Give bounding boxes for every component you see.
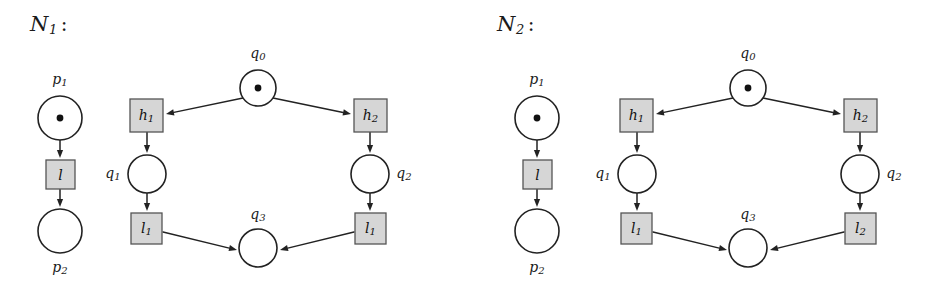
- place-q2-label: q2: [396, 166, 411, 182]
- petri-net-n2: N2:lp1p2h1h2l1l2q0q1q2q3: [467, 0, 933, 289]
- place-q3-label: q3: [740, 207, 755, 223]
- place-q1-label: q1: [595, 166, 610, 182]
- place-q0-label: q0: [250, 46, 265, 62]
- net-labels: lp1p2h1h2l1l2q0q1q2q3: [467, 0, 933, 289]
- transition-l-label: l: [535, 168, 539, 182]
- transition-h1-label: h1: [139, 108, 154, 124]
- place-p1-label: p1: [529, 72, 544, 88]
- petri-net-figure: N1:lp1p2h1h2l1l1q0q1q2q3 N2:lp1p2h1h2l1l…: [0, 0, 933, 289]
- transition-l1-left-label: l1: [141, 221, 152, 237]
- transition-l2-right-label: l2: [855, 221, 866, 237]
- transition-l1-left-label: l1: [631, 221, 642, 237]
- place-q2-label: q2: [886, 166, 901, 182]
- place-q1-label: q1: [105, 166, 120, 182]
- transition-l-label: l: [58, 168, 62, 182]
- transition-h2-label: h2: [853, 108, 868, 124]
- place-q0-label: q0: [740, 46, 755, 62]
- transition-h2-label: h2: [363, 108, 378, 124]
- place-p1-label: p1: [52, 72, 67, 88]
- transition-h1-label: h1: [629, 108, 644, 124]
- net-labels: lp1p2h1h2l1l1q0q1q2q3: [0, 0, 466, 289]
- petri-net-n1: N1:lp1p2h1h2l1l1q0q1q2q3: [0, 0, 466, 289]
- place-p2-label: p2: [52, 260, 67, 276]
- place-q3-label: q3: [250, 207, 265, 223]
- place-p2-label: p2: [529, 260, 544, 276]
- transition-l1-right-label: l1: [365, 221, 376, 237]
